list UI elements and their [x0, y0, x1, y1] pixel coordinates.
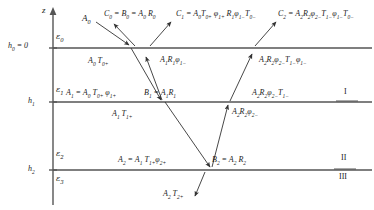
upward-A1R1phi1minus: A1R1φ1−	[160, 56, 186, 66]
reflected-C0-expression: C0 = B0 = A0 R0	[104, 10, 156, 20]
ray-down-layer2	[165, 102, 210, 167]
upward-A2R2phi2minusT1minus: A2R2φ2−T1−	[252, 89, 289, 99]
amplitude-A2-definition: A2 = A1 T1+φ2+	[118, 156, 166, 166]
amplitude-B1-definition: B1 = A1R1	[144, 89, 176, 99]
region-numeral-II: II	[341, 154, 346, 162]
transmitted-A2T2plus: A2 T2+	[163, 190, 183, 200]
ray-incident-A0	[96, 22, 129, 45]
axis-label-z: z	[42, 6, 46, 15]
ray-up-layer1-right	[230, 54, 252, 101]
figure-canvas: z h0 = 0 h1 h2 ε0 ε1 ε2 ε3 I II III A0C0…	[0, 0, 374, 210]
upward-A2R2phi2minusT1minusphi1minus: A2R2φ2−T1−φ1−	[259, 56, 307, 66]
ray-reflected-C0	[114, 24, 135, 46]
upward-A2R2phi2minus: A2R2φ2−	[232, 108, 258, 118]
transmitted-A1T1plus: A1 T1+	[112, 110, 132, 120]
reflected-C2-expression: C2 = A2R2φ2−T1−φ1−T0−	[278, 10, 354, 20]
incident-wave-A0: A0	[82, 14, 91, 25]
transmitted-A0T0plus: A0 T0+	[88, 57, 108, 67]
ray-out-C1	[150, 22, 171, 46]
ray-out-C2	[255, 22, 276, 46]
permittivity-label-eps3: ε3	[56, 175, 64, 185]
permittivity-label-eps0: ε0	[56, 33, 64, 43]
permittivity-label-eps1: ε1	[56, 86, 64, 96]
region-numeral-I: I	[344, 88, 347, 96]
region-numeral-III: III	[339, 173, 347, 181]
interface-label-h2: h2	[28, 165, 35, 175]
interface-label-h0: h0 = 0	[8, 42, 28, 52]
amplitude-A1-definition: A1 = A0 T0+ φ1+	[66, 89, 116, 99]
amplitude-B2-definition: B2 = A2 R2	[212, 156, 246, 166]
interface-label-h1: h1	[28, 97, 35, 107]
permittivity-label-eps2: ε2	[56, 150, 64, 160]
ray-transmitted-A2T2	[195, 172, 205, 196]
reflected-C1-expression: C1 = A0T0+ φ1+ R1φ1−T0−	[176, 10, 256, 20]
